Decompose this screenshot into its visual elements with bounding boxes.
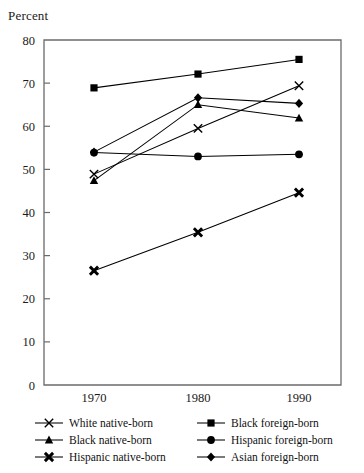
legend-column-right: Black foreign-bornHispanic foreign-bornA…	[196, 414, 333, 465]
legend-item-label: Asian foreign-born	[226, 450, 319, 464]
legend-marker-circle-icon	[196, 433, 226, 447]
data-series	[90, 189, 303, 275]
marker-circle	[194, 153, 202, 161]
marker-diamond	[295, 99, 303, 108]
y-axis-tick-label: 0	[29, 379, 35, 393]
x-axis-tick-label: 1980	[186, 391, 211, 405]
x-axis-tick-label: 1990	[287, 391, 312, 405]
legend-item-label: White native-born	[64, 416, 153, 430]
marker-diamond	[90, 148, 98, 157]
legend-item-label: Black native-born	[64, 433, 152, 447]
legend-item: Asian foreign-born	[196, 448, 333, 465]
legend-marker-square-icon	[196, 416, 226, 430]
legend-item-label: Hispanic foreign-born	[226, 433, 333, 447]
marker-x-bold	[194, 228, 202, 236]
marker-square	[90, 84, 97, 91]
marker-diamond	[194, 93, 202, 102]
y-axis-tick-label: 10	[23, 335, 36, 349]
legend-marker-diamond-icon	[196, 450, 226, 464]
y-axis-tick-label: 30	[23, 249, 36, 263]
y-axis-tick-label: 60	[23, 120, 36, 134]
chart-legend: White native-bornBlack native-bornHispan…	[0, 414, 364, 473]
legend-column-left: White native-bornBlack native-bornHispan…	[34, 414, 166, 465]
marker-square	[295, 56, 302, 63]
legend-item: Hispanic native-born	[34, 448, 166, 465]
marker-circle	[207, 436, 215, 444]
data-series	[90, 93, 303, 157]
legend-item-label: Hispanic native-born	[64, 450, 166, 464]
legend-item: Black foreign-born	[196, 414, 333, 431]
marker-x-thin	[194, 124, 202, 132]
y-axis-tick-label: 70	[23, 77, 36, 91]
y-axis-tick-label: 40	[23, 206, 36, 220]
legend-item: White native-born	[34, 414, 166, 431]
marker-x-bold	[90, 267, 98, 275]
legend-item: Hispanic foreign-born	[196, 431, 333, 448]
marker-diamond	[207, 452, 215, 461]
data-series	[90, 100, 303, 184]
marker-circle	[295, 150, 303, 158]
legend-marker-triangle-icon	[34, 433, 64, 447]
y-axis-tick-label: 50	[23, 163, 36, 177]
plot-frame	[44, 40, 341, 385]
legend-item: Black native-born	[34, 431, 166, 448]
data-series	[90, 56, 302, 92]
marker-square	[194, 70, 201, 77]
marker-x-thin	[295, 82, 303, 90]
marker-square	[207, 419, 214, 426]
y-axis-tick-label: 80	[23, 34, 36, 48]
legend-marker-x-thin-icon	[34, 416, 64, 430]
data-series	[90, 149, 303, 161]
marker-x-bold	[295, 189, 303, 197]
y-axis-tick-label: 20	[23, 292, 36, 306]
chart-container: Percent 01020304050607080197019801990 Wh…	[0, 0, 364, 473]
plot-area: 01020304050607080197019801990	[0, 0, 364, 414]
legend-marker-x-bold-icon	[34, 450, 64, 464]
x-axis-tick-label: 1970	[82, 391, 107, 405]
series-line	[94, 105, 299, 181]
legend-item-label: Black foreign-born	[226, 416, 319, 430]
